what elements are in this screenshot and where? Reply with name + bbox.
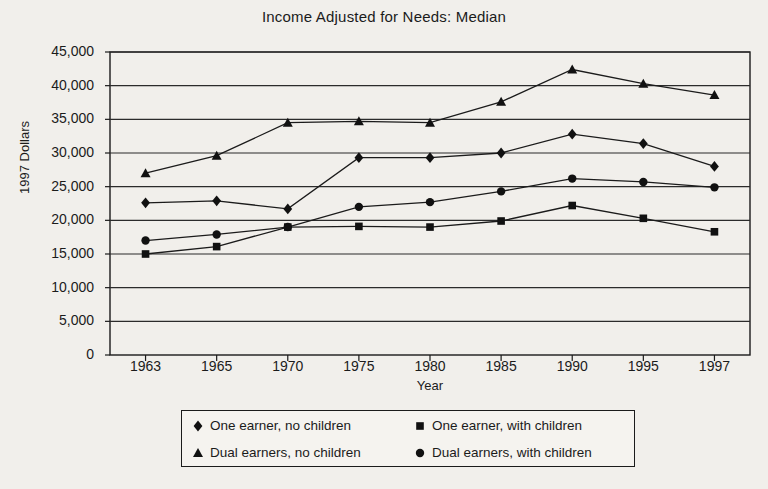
legend-marker-triangle <box>192 447 204 459</box>
x-axis-tick-label: 1980 <box>400 358 460 374</box>
data-point-circle <box>416 448 424 456</box>
data-point-circle <box>426 198 434 206</box>
data-point-diamond <box>141 197 150 208</box>
legend-marker-wrap <box>192 420 204 432</box>
data-point-circle <box>141 236 149 244</box>
x-axis-tick-label: 1963 <box>116 358 176 374</box>
data-point-square <box>568 202 576 210</box>
data-point-circle <box>355 203 363 211</box>
data-point-square <box>426 223 434 231</box>
data-point-square <box>416 422 424 430</box>
legend-label: Dual earners, no children <box>210 445 361 460</box>
series-line <box>146 134 715 209</box>
x-axis-tick-label: 1965 <box>187 358 247 374</box>
y-axis-tick-label: 20,000 <box>8 211 94 227</box>
x-axis-tick-label: 1990 <box>542 358 602 374</box>
data-point-diamond <box>212 195 221 206</box>
data-point-circle <box>212 230 220 238</box>
series-square <box>142 202 718 258</box>
y-axis-tick-label: 15,000 <box>8 245 94 261</box>
y-axis-tick-label: 0 <box>8 346 94 362</box>
data-point-triangle <box>212 151 222 160</box>
legend-item: Dual earners, no children <box>186 439 408 466</box>
chart-container: Income Adjusted for Needs: Median 1997 D… <box>0 0 768 489</box>
data-point-square <box>711 228 719 236</box>
y-axis-tick-label: 40,000 <box>8 77 94 93</box>
legend: One earner, no childrenOne earner, with … <box>181 410 635 467</box>
data-point-triangle <box>193 448 203 457</box>
legend-item: One earner, no children <box>186 412 408 439</box>
data-point-diamond <box>283 203 292 214</box>
legend-item: Dual earners, with children <box>408 439 630 466</box>
series-circle <box>141 174 718 244</box>
legend-marker-circle <box>414 447 426 459</box>
data-point-triangle <box>567 65 577 74</box>
data-point-triangle <box>496 97 506 106</box>
data-point-circle <box>639 178 647 186</box>
data-point-circle <box>284 223 292 231</box>
data-point-diamond <box>497 148 506 159</box>
legend-item: One earner, with children <box>408 412 630 439</box>
series-line <box>146 179 715 241</box>
legend-label: One earner, no children <box>210 418 351 433</box>
legend-marker-wrap <box>414 447 426 459</box>
data-point-square <box>213 243 221 251</box>
y-axis-tick-label: 35,000 <box>8 110 94 126</box>
x-axis-tick-label: 1970 <box>258 358 318 374</box>
data-point-diamond <box>354 152 363 163</box>
legend-label: Dual earners, with children <box>432 445 592 460</box>
data-point-diamond <box>194 420 203 431</box>
y-axis-tick-label: 30,000 <box>8 144 94 160</box>
legend-marker-wrap <box>192 447 204 459</box>
data-point-diamond <box>426 152 435 163</box>
data-point-square <box>640 215 648 223</box>
legend-label: One earner, with children <box>432 418 582 433</box>
legend-marker-wrap <box>414 420 426 432</box>
data-point-square <box>355 223 363 231</box>
data-point-diamond <box>639 138 648 149</box>
data-point-diamond <box>568 129 577 140</box>
data-point-square <box>497 217 505 225</box>
legend-marker-square <box>414 420 426 432</box>
x-axis-label: Year <box>110 378 750 393</box>
y-axis-tick-label: 45,000 <box>8 43 94 59</box>
x-axis-tick-label: 1995 <box>613 358 673 374</box>
data-point-circle <box>568 174 576 182</box>
y-axis-tick-label: 10,000 <box>8 279 94 295</box>
data-point-square <box>142 250 150 258</box>
legend-marker-diamond <box>192 420 204 432</box>
x-axis-tick-label: 1985 <box>471 358 531 374</box>
data-point-circle <box>497 187 505 195</box>
x-axis-tick-label: 1997 <box>684 358 744 374</box>
y-axis-tick-label: 25,000 <box>8 178 94 194</box>
x-axis-tick-label: 1975 <box>329 358 389 374</box>
data-point-circle <box>710 183 718 191</box>
y-axis-tick-label: 5,000 <box>8 312 94 328</box>
data-point-diamond <box>710 161 719 172</box>
